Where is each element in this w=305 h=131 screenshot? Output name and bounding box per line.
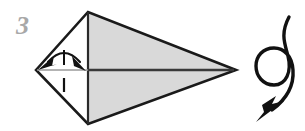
loop-arrow-head [256, 96, 284, 122]
origami-diagram-canvas: 3 [0, 0, 305, 131]
step-number-label: 3 [15, 11, 29, 40]
turn-over-loop-arrow [256, 17, 293, 122]
origami-step-figure: 3 [0, 0, 305, 131]
loop-arrow-path [256, 17, 293, 110]
paper-model [36, 12, 236, 124]
